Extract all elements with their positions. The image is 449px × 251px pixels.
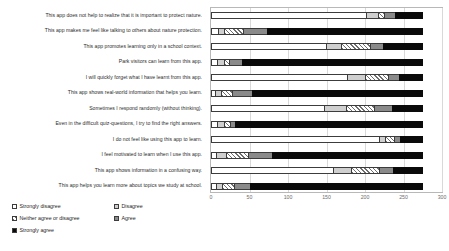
bar-segment-3 — [234, 183, 251, 190]
bar-segment-1 — [326, 43, 343, 50]
category-label: This app makes me feel like talking to o… — [45, 27, 202, 33]
stacked-bar — [211, 167, 422, 174]
bar-segment-4 — [399, 74, 422, 81]
bar-segment-1 — [347, 74, 366, 81]
x-axis-ticks: 050100150200250300 — [210, 194, 443, 204]
category-label: This app helps you learn more about topi… — [59, 182, 202, 188]
stacked-bar — [211, 105, 422, 112]
bar-row — [211, 86, 442, 102]
stacked-bar — [211, 183, 422, 190]
bar-segment-0 — [211, 167, 334, 174]
stacked-bar — [211, 28, 422, 35]
category-label: I feel motivated to learn when I use thi… — [101, 151, 202, 157]
legend-swatch-icon — [12, 204, 17, 209]
x-tick-label: 150 — [322, 194, 331, 200]
legend-swatch-icon — [12, 228, 17, 233]
bar-segment-0 — [211, 43, 327, 50]
bar-segment-0 — [211, 74, 348, 81]
bar-row — [211, 70, 442, 86]
category-label: Even in the difficult quiz-questions, I … — [55, 120, 202, 126]
stacked-bar — [211, 90, 422, 97]
x-tick-label: 0 — [210, 194, 213, 200]
bar-row — [211, 163, 442, 179]
category-label: I will quickly forget what I have learnt… — [86, 74, 202, 80]
legend-label: Disagree — [122, 203, 143, 209]
bar-segment-4 — [235, 121, 423, 128]
category-axis-labels: This app does not help to realize that i… — [0, 7, 206, 193]
bar-segment-4 — [383, 43, 423, 50]
legend-label: Strongly agree — [20, 227, 54, 233]
legend-item[interactable]: Strongly disagree — [12, 203, 61, 209]
legend-item[interactable]: Neither agree or disagree — [12, 215, 80, 221]
bar-segment-2 — [346, 105, 374, 112]
gridline — [442, 8, 443, 192]
bar-row — [211, 117, 442, 133]
stacked-bar — [211, 74, 422, 81]
bar-row — [211, 8, 442, 24]
bar-segment-3 — [243, 28, 268, 35]
legend-label: Neither agree or disagree — [20, 215, 80, 221]
legend-item[interactable]: Strongly agree — [12, 227, 54, 233]
legend-item[interactable]: Disagree — [114, 203, 143, 209]
bar-segment-3 — [248, 152, 273, 159]
bar-segment-4 — [267, 28, 423, 35]
bar-segment-3 — [374, 105, 393, 112]
bar-row — [211, 24, 442, 40]
bar-segment-4 — [393, 167, 422, 174]
stacked-bar — [211, 43, 422, 50]
bar-segment-2 — [365, 74, 389, 81]
bar-segment-3 — [379, 167, 394, 174]
bar-segment-1 — [333, 167, 352, 174]
category-label: This app promotes learning only in a sch… — [83, 43, 202, 49]
bar-segment-4 — [400, 136, 422, 143]
x-tick-label: 250 — [399, 194, 408, 200]
bar-segment-0 — [211, 136, 380, 143]
bar-row — [211, 148, 442, 164]
category-label: I do not feel like using this app to lea… — [113, 136, 202, 142]
category-label: Sometimes I respond randomly (without th… — [89, 105, 202, 111]
bar-row — [211, 39, 442, 55]
bar-segment-4 — [252, 90, 424, 97]
bar-row — [211, 179, 442, 195]
bar-segment-2 — [226, 152, 249, 159]
bar-segment-3 — [229, 59, 244, 66]
x-tick-label: 200 — [361, 194, 370, 200]
bar-row — [211, 55, 442, 71]
bar-segment-4 — [272, 152, 423, 159]
bar-segment-4 — [250, 183, 423, 190]
bar-segment-1 — [366, 12, 380, 19]
bar-rows — [211, 8, 442, 192]
bar-segment-4 — [395, 12, 423, 19]
bar-segment-4 — [242, 59, 423, 66]
bar-segment-3 — [370, 43, 384, 50]
stacked-bar-chart: This app does not help to realize that i… — [0, 0, 449, 251]
stacked-bar — [211, 136, 422, 143]
legend-label: Agree — [122, 215, 136, 221]
stacked-bar — [211, 59, 422, 66]
bar-segment-4 — [392, 105, 423, 112]
x-tick-label: 300 — [438, 194, 447, 200]
category-label: This app shows information in a confusin… — [95, 167, 202, 173]
bar-segment-1 — [324, 105, 347, 112]
legend-swatch-icon — [114, 204, 119, 209]
legend-swatch-icon — [114, 216, 119, 221]
bar-row — [211, 132, 442, 148]
category-label: This app shows real-world information th… — [68, 89, 202, 95]
legend-swatch-icon — [12, 216, 17, 221]
stacked-bar — [211, 121, 422, 128]
category-label: This app does not help to realize that i… — [45, 12, 202, 18]
plot-area — [210, 7, 443, 193]
bar-segment-2 — [351, 167, 379, 174]
legend-item[interactable]: Agree — [114, 215, 136, 221]
stacked-bar — [211, 152, 422, 159]
chart-legend: Strongly disagreeDisagreeNeither agree o… — [12, 203, 197, 245]
bar-segment-0 — [211, 105, 325, 112]
bar-segment-3 — [232, 90, 253, 97]
bar-segment-0 — [211, 12, 367, 19]
stacked-bar — [211, 12, 422, 19]
x-tick-label: 100 — [284, 194, 293, 200]
bar-segment-2 — [224, 28, 244, 35]
x-tick-label: 50 — [247, 194, 253, 200]
bar-row — [211, 101, 442, 117]
legend-label: Strongly disagree — [20, 203, 61, 209]
